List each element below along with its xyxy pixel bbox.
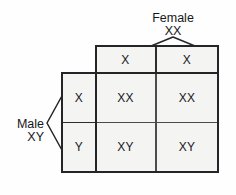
- row-header-0: X: [62, 73, 96, 123]
- offspring-cell-1-1: XY: [156, 122, 218, 172]
- offspring-cell-0-0: XX: [95, 73, 156, 123]
- male-parent-genotype: XY: [2, 131, 44, 144]
- column-header-1: X: [156, 46, 218, 74]
- row-header-1: Y: [62, 122, 96, 172]
- punnett-square-diagram: Female XX Male XY X X X Y XX XX XY XY: [0, 0, 236, 195]
- offspring-cell-1-0: XY: [95, 122, 156, 172]
- male-parent-label: Male XY: [2, 118, 44, 144]
- female-parent-label: Female XX: [132, 12, 214, 38]
- scan-watermark: [17, 59, 58, 78]
- column-header-0: X: [95, 46, 156, 74]
- offspring-cell-0-1: XX: [156, 73, 218, 123]
- female-parent-genotype: XX: [132, 25, 214, 38]
